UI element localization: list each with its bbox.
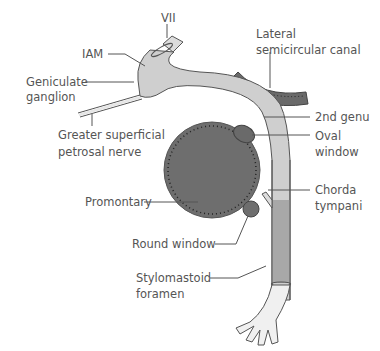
label-gspn-2: petrosal nerve	[58, 145, 141, 159]
label-geniculate-2: ganglion	[26, 90, 76, 104]
greater-superficial-petrosal-nerve	[78, 95, 142, 117]
label-lscc-2: semicircular canal	[256, 43, 361, 57]
label-oval-1: Oval	[315, 129, 341, 143]
chorda-tympani	[262, 192, 272, 208]
label-oval-2: window	[315, 145, 359, 159]
label-round-window: Round window	[132, 237, 216, 251]
facial-nerve-branches	[236, 285, 290, 345]
label-chorda-1: Chorda	[315, 183, 356, 197]
facial-nerve-proximal	[163, 36, 183, 52]
label-lscc-1: Lateral	[256, 27, 296, 41]
label-second-genu: 2nd genu	[315, 110, 370, 124]
label-iam: IAM	[82, 47, 103, 61]
facial-nerve-diagram: VII IAM Geniculate ganglion Greater supe…	[0, 0, 380, 351]
label-stylo-1: Stylomastoid	[136, 271, 211, 285]
label-stylo-2: foramen	[136, 287, 184, 301]
label-vii: VII	[161, 11, 176, 25]
round-window	[243, 201, 259, 217]
label-promontory: Promontary	[85, 195, 152, 209]
label-gspn-1: Greater superficial	[58, 128, 165, 142]
label-geniculate-1: Geniculate	[26, 75, 88, 89]
label-chorda-2: tympani	[315, 199, 362, 213]
